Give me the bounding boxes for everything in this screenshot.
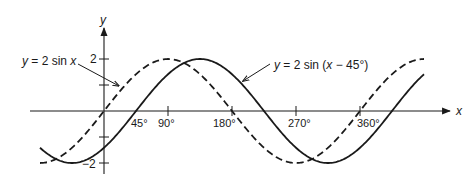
annotation-2sin-shift: y = 2 sin (x − 45°): [273, 58, 368, 72]
annotation-arrow-2sin-shift: [243, 64, 270, 81]
sine-chart: x y 2 −2 45° 90° 180° 270° 360° y = 2 si…: [0, 0, 476, 185]
x-tick-label-360: 360°: [357, 117, 380, 129]
y-axis-label: y: [99, 13, 107, 27]
y-tick-label-2: 2: [90, 52, 97, 66]
annotation-arrow-2sinx: [78, 64, 119, 86]
x-tick-label-180: 180°: [213, 117, 236, 129]
x-tick-label-270: 270°: [288, 117, 311, 129]
x-tick-label-45: 45°: [131, 117, 148, 129]
x-tick-label-90: 90°: [158, 117, 175, 129]
annotation-2sinx: y = 2 sin x: [21, 54, 77, 68]
x-axis-label: x: [455, 104, 463, 118]
